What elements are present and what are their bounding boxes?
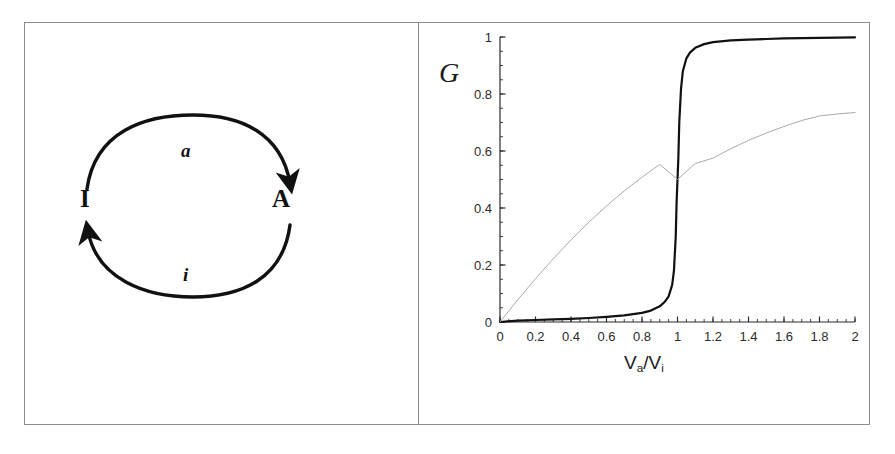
x-tick-label: 1.8 [810, 330, 828, 343]
inactivation-arc [88, 225, 290, 297]
y-tick-label: 0.2 [419, 259, 492, 272]
x-axis-title-base2: V [649, 352, 662, 373]
plot-series [500, 37, 855, 322]
x-tick-label: 0.8 [633, 330, 651, 343]
y-tick-label: 0.6 [419, 145, 492, 158]
series-line-hyperbolic [500, 113, 855, 322]
edge-label-activation: a [181, 141, 191, 160]
x-axis-title-sub2: i [661, 361, 664, 374]
y-tick-label: 0.4 [419, 202, 492, 215]
x-axis-title: Va/Vi [419, 353, 869, 372]
cycle-diagram-graphic [25, 23, 418, 424]
x-tick-label: 0.2 [526, 330, 544, 343]
x-tick-label: 1.2 [704, 330, 722, 343]
x-tick-label: 1.4 [739, 330, 757, 343]
y-tick-label: 1 [419, 31, 492, 44]
node-label-inactive: I [80, 186, 90, 211]
figure-root: I A a i G 00.20.40.60.811.21.41.61.8200.… [0, 0, 895, 454]
x-tick-label: 1.6 [775, 330, 793, 343]
y-tick-label: 0 [419, 316, 492, 329]
cycle-diagram-panel: I A a i [25, 23, 418, 424]
node-label-active: A [272, 186, 290, 211]
x-axis-title-base1: V [624, 352, 637, 373]
x-tick-label: 1 [674, 330, 681, 343]
edge-label-inactivation: i [183, 265, 188, 284]
x-tick-label: 0 [496, 330, 503, 343]
plot-panel: G 00.20.40.60.811.21.41.61.8200.20.40.60… [419, 23, 869, 424]
x-tick-label: 0.6 [597, 330, 615, 343]
y-tick-label: 0.8 [419, 88, 492, 101]
x-tick-label: 0.4 [562, 330, 580, 343]
x-axis-title-sub1: a [637, 361, 644, 374]
x-tick-label: 2 [851, 330, 858, 343]
